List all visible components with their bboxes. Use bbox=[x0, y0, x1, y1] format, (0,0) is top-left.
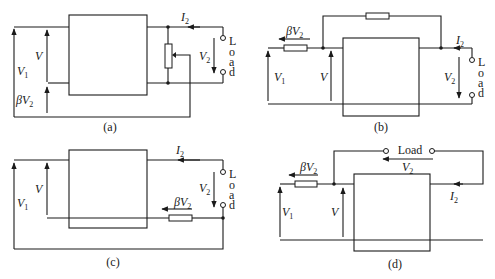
load-wire bbox=[334, 151, 384, 184]
feedback-wire bbox=[14, 55, 190, 117]
junction-dot bbox=[166, 81, 170, 85]
panel-b: βV2 V1 V I2 V2 L o a d (b) bbox=[268, 13, 485, 134]
load-terminal bbox=[221, 70, 226, 75]
load-terminal bbox=[221, 36, 226, 41]
i2-label: I2 bbox=[455, 33, 464, 49]
load-terminal bbox=[470, 93, 475, 98]
feedback-resistor bbox=[366, 13, 389, 19]
v1-label: V1 bbox=[17, 196, 28, 212]
load-terminal bbox=[221, 170, 226, 175]
beta-v2-label: βV2 bbox=[285, 24, 303, 40]
beta-v2-label: βV2 bbox=[299, 160, 317, 176]
potentiometer-resistor bbox=[165, 44, 172, 68]
load-label: L o a d bbox=[478, 55, 485, 100]
svg-text:d: d bbox=[478, 86, 484, 100]
feedback-wire bbox=[323, 16, 366, 48]
wiper-arrow bbox=[172, 52, 176, 58]
v-label: V bbox=[320, 70, 329, 84]
v-label: V bbox=[35, 182, 44, 196]
panel-d: Load V2 βV2 V1 V I2 (d) bbox=[280, 143, 483, 271]
beta-v2-label: βV2 bbox=[15, 93, 33, 109]
v1-label: V1 bbox=[17, 64, 28, 80]
v1-label: V1 bbox=[282, 205, 293, 221]
v1-label: V1 bbox=[274, 70, 285, 86]
series-input-resistor bbox=[295, 181, 317, 187]
junction-dot bbox=[439, 46, 443, 50]
panel-c: I2 V V1 βV2 V2 L o a d (c) bbox=[14, 143, 236, 269]
caption-b: (b) bbox=[374, 120, 388, 134]
i2-label: I2 bbox=[180, 10, 189, 26]
return-wire bbox=[14, 218, 223, 249]
v-label: V bbox=[35, 49, 44, 63]
v-label: V bbox=[331, 205, 340, 219]
v2-label: V2 bbox=[199, 181, 210, 197]
load-label: L o a d bbox=[229, 34, 236, 79]
load-terminal bbox=[470, 58, 475, 63]
svg-text:d: d bbox=[229, 65, 235, 79]
panel-a: I2 V V1 βV2 V2 L o a d (a) bbox=[14, 10, 236, 134]
caption-a: (a) bbox=[103, 120, 116, 134]
v2-label: V2 bbox=[199, 49, 210, 65]
load-label: L o a d bbox=[229, 167, 236, 212]
caption-d: (d) bbox=[388, 257, 402, 271]
junction-dot bbox=[166, 25, 170, 29]
feedback-circuits-figure: I2 V V1 βV2 V2 L o a d (a) bbox=[0, 0, 495, 279]
amplifier-block bbox=[69, 15, 147, 95]
v2-label: V2 bbox=[402, 160, 413, 176]
caption-c: (c) bbox=[106, 255, 119, 269]
output-wire bbox=[430, 151, 483, 184]
v2-label: V2 bbox=[444, 70, 455, 86]
svg-text:d: d bbox=[229, 198, 235, 212]
load-terminal bbox=[430, 149, 435, 154]
load-terminal bbox=[221, 203, 226, 208]
i2-label: I2 bbox=[175, 143, 184, 159]
amplifier-block bbox=[69, 150, 147, 228]
beta-v2-label: βV2 bbox=[173, 195, 191, 211]
load-terminal bbox=[384, 149, 389, 154]
feedback-resistor bbox=[169, 215, 192, 221]
i2-label: I2 bbox=[449, 189, 458, 205]
series-input-resistor bbox=[284, 45, 307, 51]
load-label: Load bbox=[398, 143, 423, 157]
